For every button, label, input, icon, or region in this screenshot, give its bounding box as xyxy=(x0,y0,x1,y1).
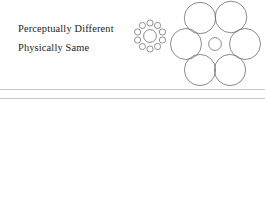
small-inducer-cluster-top xyxy=(133,19,167,53)
caption-top-line1: Perceptually Different xyxy=(18,24,150,43)
inducer-ring-small-top xyxy=(135,20,166,52)
caption-top: Perceptually Different Physically Same xyxy=(18,24,150,62)
target-circle-large-top xyxy=(209,38,222,51)
target-circle-small-top xyxy=(144,30,157,43)
ebbinghaus-illusion-figure: Perceptually Different Physically Same xyxy=(0,0,265,197)
panel-bottom: Perceptually Same Physically Different xyxy=(0,99,265,197)
inducer-ring-large-top xyxy=(171,1,261,85)
panel-top: Perceptually Different Physically Same xyxy=(0,0,265,99)
divider-upper xyxy=(0,89,265,90)
large-inducer-cluster-top xyxy=(175,0,261,88)
caption-top-line2: Physically Same xyxy=(18,43,150,62)
